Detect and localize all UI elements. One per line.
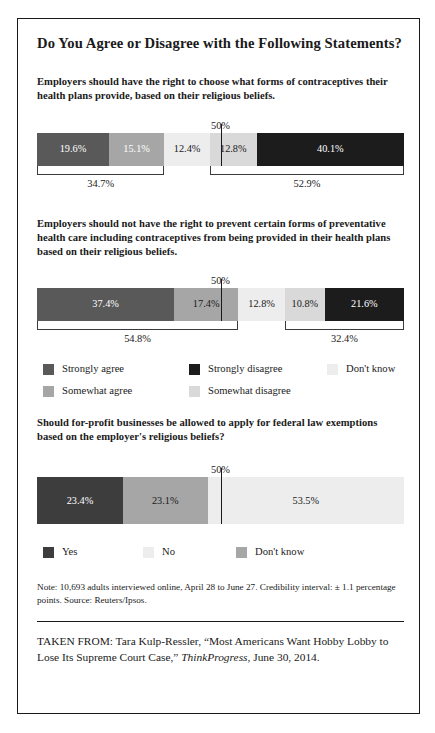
bar-segment: 23.4% [37, 477, 123, 524]
bar-segment-value: 15.1% [123, 144, 150, 154]
statement-3: Should for-profit businesses be allowed … [37, 416, 404, 444]
figure-inner: Do You Agree or Disagree with the Follow… [37, 33, 404, 666]
legend-main: Strongly agreeSomewhat agreeStrongly dis… [37, 364, 404, 404]
statement-2: Employers should not have the right to p… [37, 217, 404, 259]
legend-item: Somewhat disagree [189, 386, 291, 397]
bracket [210, 166, 404, 175]
bar-segment: 23.1% [123, 477, 208, 524]
legend-label: No [162, 547, 175, 558]
bar-segment: 40.1% [257, 133, 404, 166]
bar-segment: 19.6% [37, 133, 109, 166]
legend-item: Don't know [236, 547, 304, 558]
bar-segment-value: 53.5% [293, 496, 320, 506]
bracket [37, 321, 238, 330]
bar-segment: 53.5% [208, 477, 404, 524]
legend-label: Yes [62, 547, 77, 558]
bar-segment-value: 12.8% [220, 144, 247, 154]
bracket-label: 54.8% [124, 331, 151, 346]
chart-2-bracket-row [37, 321, 404, 331]
bracket-label: 34.7% [87, 176, 114, 191]
legend-swatch-icon [236, 547, 247, 558]
bracket-label: 52.9% [294, 176, 321, 191]
chart-3-bar-area: 23.4%23.1%53.5% [37, 477, 404, 524]
legend-swatch-icon [327, 364, 338, 375]
bracket-label: 32.4% [331, 331, 358, 346]
axis-marker-line [221, 468, 222, 524]
legend-swatch-icon [43, 386, 54, 397]
bar-segment-value: 12.4% [174, 144, 201, 154]
legend-third: YesNoDon't know [37, 547, 404, 562]
chart-2-bar-area: 37.4%17.4%12.8%10.8%21.6% [37, 288, 404, 321]
chart-1-bracket-labels: 34.7%52.9% [37, 176, 404, 191]
chart-1: 50% 19.6%15.1%12.4%12.8%40.1% 34.7%52.9% [37, 119, 404, 191]
bar-segment-value: 23.4% [67, 496, 94, 506]
legend-swatch-icon [43, 364, 54, 375]
chart-2: 50% 37.4%17.4%12.8%10.8%21.6% 54.8%32.4% [37, 274, 404, 346]
bar-segment-value: 10.8% [292, 299, 319, 309]
legend-swatch-icon [189, 364, 200, 375]
chart-1-bar-area: 19.6%15.1%12.4%12.8%40.1% [37, 133, 404, 166]
figure-title: Do You Agree or Disagree with the Follow… [37, 33, 404, 54]
bar-segment: 37.4% [37, 288, 174, 321]
bar-segment: 21.6% [325, 288, 404, 321]
taken-from-publication: ThinkProgress [181, 651, 247, 663]
taken-from-suffix: , June 30, 2014. [248, 651, 320, 663]
legend-item: Somewhat agree [43, 386, 132, 397]
bar-segment-value: 12.8% [248, 299, 275, 309]
bar-segment: 12.8% [238, 288, 285, 321]
statement-1: Employers should have the right to choos… [37, 75, 404, 103]
bar-segment: 12.4% [164, 133, 210, 166]
legend-item: Strongly agree [43, 364, 124, 375]
bar-segment-value: 40.1% [317, 144, 344, 154]
bar-segment: 10.8% [285, 288, 325, 321]
axis-marker-line [221, 124, 222, 166]
bar-segment-value: 17.4% [193, 299, 220, 309]
bar-segment: 15.1% [109, 133, 164, 166]
taken-from-attribution: TAKEN FROM: Tara Kulp-Ressler, “Most Ame… [37, 633, 404, 666]
legend-swatch-icon [143, 547, 154, 558]
chart-3: 50% 23.4%23.1%53.5% [37, 463, 404, 524]
legend-label: Don't know [346, 364, 395, 375]
legend-item: Yes [43, 547, 77, 558]
bar-segment: 12.8% [210, 133, 257, 166]
chart-1-bracket-row [37, 166, 404, 176]
bar-segment-value: 21.6% [351, 299, 378, 309]
legend-item: Don't know [327, 364, 395, 375]
legend-item: No [143, 547, 175, 558]
legend-label: Strongly disagree [208, 364, 282, 375]
bracket [285, 321, 404, 330]
legend-item: Strongly disagree [189, 364, 282, 375]
bar-segment-value: 37.4% [92, 299, 119, 309]
bracket [37, 166, 164, 175]
legend-label: Somewhat disagree [208, 386, 291, 397]
axis-marker-line [221, 279, 222, 321]
bar-segment: 17.4% [174, 288, 238, 321]
legend-label: Strongly agree [62, 364, 124, 375]
legend-swatch-icon [189, 386, 200, 397]
chart-2-bracket-labels: 54.8%32.4% [37, 331, 404, 346]
figure-frame: Do You Agree or Disagree with the Follow… [17, 18, 420, 714]
source-note: Note: 10,693 adults interviewed online, … [37, 581, 404, 606]
legend-swatch-icon [43, 547, 54, 558]
legend-label: Don't know [255, 547, 304, 558]
bar-segment-value: 23.1% [152, 496, 179, 506]
legend-label: Somewhat agree [62, 386, 132, 397]
bar-segment-value: 19.6% [60, 144, 87, 154]
